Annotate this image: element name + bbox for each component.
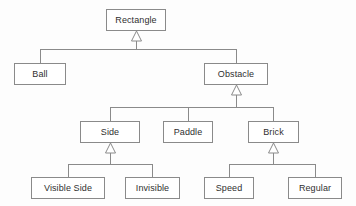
class-label-brick: Brick xyxy=(263,128,284,137)
class-label-regular: Regular xyxy=(299,184,331,193)
generalization-arrowhead-rectangle xyxy=(132,31,142,41)
class-box-ball[interactable]: Ball xyxy=(14,63,66,85)
class-label-obstacle: Obstacle xyxy=(218,70,254,79)
generalization-arrowhead-obstacle xyxy=(232,85,242,95)
uml-class-diagram: Rectangle Ball Obstacle Side Paddle Bric… xyxy=(0,0,356,206)
class-label-rectangle: Rectangle xyxy=(115,16,156,25)
class-box-visible-side[interactable]: Visible Side xyxy=(31,177,105,199)
class-box-rectangle[interactable]: Rectangle xyxy=(106,9,166,31)
class-label-invisible: Invisible xyxy=(136,184,169,193)
class-label-ball: Ball xyxy=(32,70,47,79)
generalization-arrowhead-brick xyxy=(269,143,279,153)
class-box-invisible[interactable]: Invisible xyxy=(125,177,180,199)
class-box-obstacle[interactable]: Obstacle xyxy=(204,63,268,85)
class-label-visible-side: Visible Side xyxy=(44,184,92,193)
class-box-regular[interactable]: Regular xyxy=(288,177,342,199)
class-label-speed: Speed xyxy=(216,184,243,193)
class-box-speed[interactable]: Speed xyxy=(204,177,254,199)
class-label-paddle: Paddle xyxy=(174,128,203,137)
class-box-side[interactable]: Side xyxy=(80,121,140,143)
class-box-paddle[interactable]: Paddle xyxy=(163,121,213,143)
generalization-arrowhead-side xyxy=(106,143,116,153)
class-label-side: Side xyxy=(101,128,119,137)
inheritance-edge-layer xyxy=(0,0,356,206)
class-box-brick[interactable]: Brick xyxy=(248,121,299,143)
